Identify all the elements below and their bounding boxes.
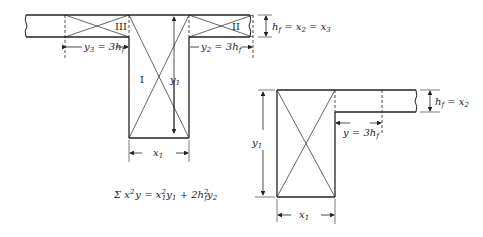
region-i-label: I bbox=[140, 74, 144, 85]
hf-dimension-label: hf = x2 = x3 bbox=[272, 21, 331, 34]
right-hf-label: hf = x2 bbox=[435, 96, 469, 109]
region-ii-label: II bbox=[232, 21, 240, 32]
region-iii-label: III bbox=[115, 21, 127, 32]
right-x1-label: x1 bbox=[299, 209, 309, 222]
y3-dimension-label: y3 = 3hf bbox=[83, 41, 126, 54]
right-l-section bbox=[255, 90, 440, 224]
right-y-label: y = 3hf bbox=[342, 127, 380, 140]
left-t-section bbox=[25, 15, 272, 162]
y1-dimension-label: y1 bbox=[169, 74, 180, 87]
y2-dimension-label: y2 = 3hf bbox=[200, 41, 243, 54]
right-y1-label: y1 bbox=[251, 137, 262, 150]
torsion-diagram: III II I y3 = 3hf y2 = 3hf y1 x1 hf = x2… bbox=[0, 0, 483, 237]
torsion-formula: Σ x2y = x21y1 + 2h2fy2 bbox=[113, 188, 218, 202]
x1-dimension-label: x1 bbox=[153, 147, 163, 160]
